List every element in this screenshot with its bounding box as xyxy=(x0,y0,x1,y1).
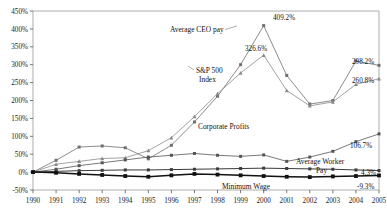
value-label-minwage-end: -9.3% xyxy=(357,183,374,191)
annotation-sp500-line1: S&P 500 xyxy=(196,66,223,75)
y-tick-label: 0% xyxy=(18,169,28,177)
x-tick-label: 2003 xyxy=(326,197,341,205)
x-tick-label: 1993 xyxy=(95,197,110,205)
data-point-marker xyxy=(377,174,381,178)
data-point-marker xyxy=(262,167,265,170)
data-point-marker xyxy=(216,173,220,177)
data-point-marker xyxy=(285,74,288,77)
data-point-marker xyxy=(378,64,381,67)
annotation-sp500-line2: Index xyxy=(199,75,216,84)
data-point-marker xyxy=(124,168,127,171)
value-label-sp500-end: 260.8% xyxy=(352,77,374,85)
data-point-marker xyxy=(239,155,242,158)
value-label-profits-end: 106.7% xyxy=(350,142,372,150)
value-label-ceo-end: 298.2% xyxy=(352,58,374,66)
y-tick-label: 100% xyxy=(11,133,28,141)
data-point-marker xyxy=(54,171,58,175)
x-tick-label: 1991 xyxy=(49,197,64,205)
x-tick-label: 1990 xyxy=(26,197,41,205)
data-point-marker xyxy=(193,172,197,176)
data-point-marker xyxy=(285,160,288,163)
data-point-marker xyxy=(100,173,104,177)
data-point-marker xyxy=(193,152,196,155)
data-point-marker xyxy=(170,144,173,147)
x-tick-label: 2005 xyxy=(372,197,387,205)
x-tick-label: 1992 xyxy=(72,197,87,205)
data-point-marker xyxy=(55,159,58,162)
x-tick-label: 1995 xyxy=(141,197,156,205)
data-point-marker xyxy=(193,120,196,123)
data-point-marker xyxy=(216,167,219,170)
data-point-marker xyxy=(146,175,150,179)
data-point-marker xyxy=(331,174,335,178)
value-label-sp500-peak: 326.6% xyxy=(245,45,267,53)
annotation-ceo-pay: Average CEO pay xyxy=(170,25,224,34)
data-point-marker xyxy=(31,170,35,174)
data-point-marker xyxy=(308,167,311,170)
y-axis-ticks xyxy=(30,11,33,190)
data-point-marker xyxy=(101,161,104,164)
y-tick-label: 400% xyxy=(11,26,28,34)
data-point-marker xyxy=(124,146,127,149)
x-tick-label: 1994 xyxy=(118,197,133,205)
x-tick-label: 1998 xyxy=(210,197,225,205)
data-point-marker xyxy=(331,150,334,153)
data-point-marker xyxy=(239,167,242,170)
annotation-corporate-profits: Corporate Profits xyxy=(198,122,249,131)
x-tick-label: 2000 xyxy=(256,197,271,205)
x-tick-label: 2004 xyxy=(349,197,364,205)
x-tick-label: 2001 xyxy=(280,197,295,205)
data-point-marker xyxy=(101,144,104,147)
data-point-marker xyxy=(378,169,381,172)
data-point-marker xyxy=(354,174,358,178)
data-point-marker xyxy=(354,168,357,171)
data-point-marker xyxy=(308,175,312,179)
y-axis-labels: 450%400%350%300%250%200%150%100%50%0%-50… xyxy=(11,8,28,195)
data-point-marker xyxy=(262,153,265,156)
y-tick-label: 150% xyxy=(11,115,28,123)
data-point-marker xyxy=(77,172,81,176)
x-tick-label: 1999 xyxy=(233,197,248,205)
y-tick-label: -50% xyxy=(12,187,28,195)
y-tick-label: 250% xyxy=(11,79,28,87)
x-tick-label: 2002 xyxy=(303,197,318,205)
data-point-marker xyxy=(216,154,219,157)
data-point-marker xyxy=(78,164,81,167)
value-label-worker-end: 4.3% xyxy=(361,169,376,177)
data-point-marker xyxy=(170,173,174,177)
data-point-marker xyxy=(147,156,150,159)
line-chart: 450%400%350%300%250%200%150%100%50%0%-50… xyxy=(0,0,387,215)
data-point-marker xyxy=(124,158,127,161)
annotation-worker-pay-line2: Pay xyxy=(316,166,327,175)
data-point-marker xyxy=(147,168,150,171)
data-point-marker xyxy=(123,174,127,178)
data-point-marker xyxy=(193,168,196,171)
x-axis-ticks xyxy=(33,190,379,193)
data-point-marker xyxy=(170,154,173,157)
data-point-marker xyxy=(101,169,104,172)
y-tick-label: 450% xyxy=(11,8,28,16)
x-tick-label: 1996 xyxy=(164,197,179,205)
y-tick-label: 50% xyxy=(15,151,28,159)
data-point-marker xyxy=(331,168,334,171)
data-point-marker xyxy=(285,175,289,179)
data-point-marker xyxy=(262,24,265,27)
x-tick-label: 1997 xyxy=(187,197,202,205)
data-point-marker xyxy=(170,168,173,171)
data-point-marker xyxy=(239,63,242,66)
value-label-ceo-peak: 409.2% xyxy=(273,14,295,22)
annotation-worker-pay-line1: Average Worker xyxy=(296,157,345,166)
data-point-marker xyxy=(239,173,243,177)
chart-container: 450%400%350%300%250%200%150%100%50%0%-50… xyxy=(0,0,387,215)
data-point-marker xyxy=(378,132,381,135)
y-tick-label: 350% xyxy=(11,43,28,51)
data-point-marker xyxy=(78,146,81,149)
x-axis-labels: 1990199119921993199419951996199719981999… xyxy=(26,197,387,205)
data-point-marker xyxy=(285,167,288,170)
data-point-marker xyxy=(262,174,266,178)
y-tick-label: 200% xyxy=(11,97,28,105)
y-tick-label: 300% xyxy=(11,61,28,69)
annotation-minimum-wage: Minimum Wage xyxy=(222,182,271,191)
data-point-marker xyxy=(78,169,81,172)
